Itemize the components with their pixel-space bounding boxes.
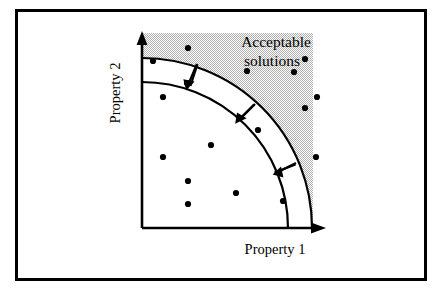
data-point <box>150 58 156 64</box>
acceptable-solutions-label-line2: solutions <box>244 52 300 69</box>
x-axis-label: Property 1 <box>245 241 306 257</box>
data-point <box>302 105 308 111</box>
acceptable-solutions-label-line1: Acceptable <box>241 33 311 50</box>
data-point <box>291 69 297 75</box>
data-point <box>185 45 191 51</box>
figure-container: Acceptable solutions Property 1 Property… <box>0 0 442 290</box>
data-point <box>208 142 214 148</box>
data-point <box>280 198 286 204</box>
data-point <box>160 94 166 100</box>
data-point <box>160 154 166 160</box>
data-point <box>185 201 191 207</box>
data-point <box>255 127 261 133</box>
pareto-front-diagram: Acceptable solutions Property 1 Property… <box>0 0 442 290</box>
data-point <box>313 154 319 160</box>
data-point <box>314 94 320 100</box>
data-point <box>184 80 190 86</box>
y-axis-label: Property 2 <box>107 63 123 124</box>
data-point <box>302 56 308 62</box>
data-point <box>185 178 191 184</box>
data-point <box>233 190 239 196</box>
